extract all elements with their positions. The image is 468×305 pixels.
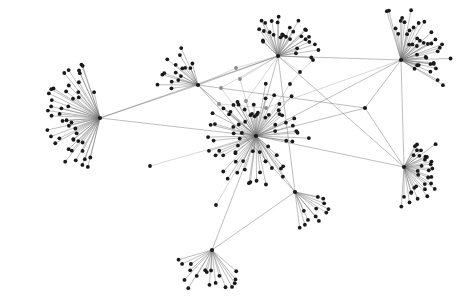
leaf-node xyxy=(266,145,270,149)
leaf-node xyxy=(412,153,416,157)
leaf-node xyxy=(434,38,438,42)
leaf-node xyxy=(415,148,419,152)
leaf-node xyxy=(314,207,318,211)
leaf-node xyxy=(429,42,433,46)
leaf-node xyxy=(221,153,225,157)
leaf-node xyxy=(86,165,90,169)
leaf-node xyxy=(240,131,244,135)
leaf-node xyxy=(45,128,49,132)
leaf-node xyxy=(317,48,321,52)
leaf-node xyxy=(232,131,236,135)
leaf-node xyxy=(402,195,406,199)
leaf-node xyxy=(322,201,326,205)
leaf-node xyxy=(177,258,181,262)
leaf-node xyxy=(288,37,292,41)
leaf-node xyxy=(234,278,238,282)
hub-node xyxy=(210,248,214,252)
leaf-node xyxy=(77,80,81,84)
leaf-node xyxy=(61,119,65,123)
leaf-node xyxy=(263,116,267,120)
leaf-node xyxy=(73,127,77,131)
leaf-node xyxy=(209,123,213,127)
leaf-node xyxy=(241,159,245,163)
leaf-node xyxy=(288,26,292,30)
leaf-node xyxy=(277,15,281,19)
leaf-node xyxy=(302,209,306,213)
leaf-node xyxy=(415,44,419,48)
leaf-node xyxy=(408,29,412,33)
leaf-node xyxy=(222,107,226,111)
leaf-node xyxy=(297,19,301,23)
leaf-node xyxy=(258,150,262,154)
leaf-node xyxy=(417,21,421,25)
leaf-node xyxy=(275,153,279,157)
leaf-node xyxy=(313,42,317,46)
leaf-node xyxy=(272,93,276,97)
leaf-node xyxy=(303,223,307,227)
leaf-node xyxy=(411,43,415,47)
leaf-node xyxy=(415,53,419,57)
hub-node xyxy=(402,165,406,169)
leaf-node xyxy=(46,109,50,113)
leaf-node xyxy=(217,274,221,278)
leaf-node xyxy=(62,71,66,75)
leaf-node xyxy=(281,175,285,179)
leaf-node xyxy=(60,106,64,110)
leaf-node xyxy=(234,269,238,273)
hub-node xyxy=(254,134,258,138)
leaf-node xyxy=(408,201,412,205)
bridge-node xyxy=(264,106,268,110)
leaf-node xyxy=(81,64,85,68)
leaf-node xyxy=(409,190,413,194)
leaf-node xyxy=(52,87,56,91)
leaf-node xyxy=(426,42,430,46)
hub-node xyxy=(363,106,367,110)
leaf-node xyxy=(174,71,178,75)
leaf-node xyxy=(306,218,310,222)
leaf-node xyxy=(400,16,404,20)
leaf-node xyxy=(255,179,259,183)
leaf-node xyxy=(170,86,174,90)
leaf-node xyxy=(231,125,235,129)
leaf-node xyxy=(230,285,234,289)
leaf-node xyxy=(226,177,230,181)
leaf-node xyxy=(277,108,281,112)
leaf-node xyxy=(214,281,218,285)
network-graph-figure xyxy=(0,0,468,305)
leaf-node xyxy=(203,268,207,272)
leaf-node xyxy=(307,35,311,39)
leaf-node xyxy=(276,21,280,25)
leaf-node xyxy=(70,121,74,125)
leaf-node xyxy=(273,123,277,127)
leaf-node xyxy=(207,149,211,153)
leaf-node xyxy=(247,181,251,185)
leaf-node xyxy=(156,83,160,87)
leaf-node xyxy=(405,32,409,36)
leaf-node xyxy=(75,131,79,135)
leaf-node xyxy=(237,123,241,127)
bridge-node xyxy=(244,99,248,103)
bridge-node xyxy=(298,70,302,74)
leaf-node xyxy=(394,27,398,31)
leaf-node xyxy=(77,68,81,72)
leaf-node xyxy=(422,20,426,24)
leaf-node xyxy=(77,96,81,100)
leaf-node xyxy=(76,139,80,143)
leaf-node xyxy=(272,33,276,37)
leaf-node xyxy=(81,163,85,167)
leaf-node xyxy=(224,285,228,289)
leaf-node xyxy=(214,153,218,157)
leaf-node xyxy=(304,37,308,41)
leaf-node xyxy=(416,197,420,201)
bridge-node xyxy=(214,203,218,207)
leaf-node xyxy=(399,205,403,209)
leaf-node xyxy=(186,286,190,290)
leaf-node xyxy=(307,40,311,44)
bridge-node xyxy=(217,102,221,106)
leaf-node xyxy=(183,278,187,282)
leaf-node xyxy=(422,41,426,45)
leaf-node xyxy=(211,111,215,115)
leaf-node xyxy=(420,164,424,168)
leaf-node xyxy=(298,226,302,230)
leaf-node xyxy=(314,215,318,219)
